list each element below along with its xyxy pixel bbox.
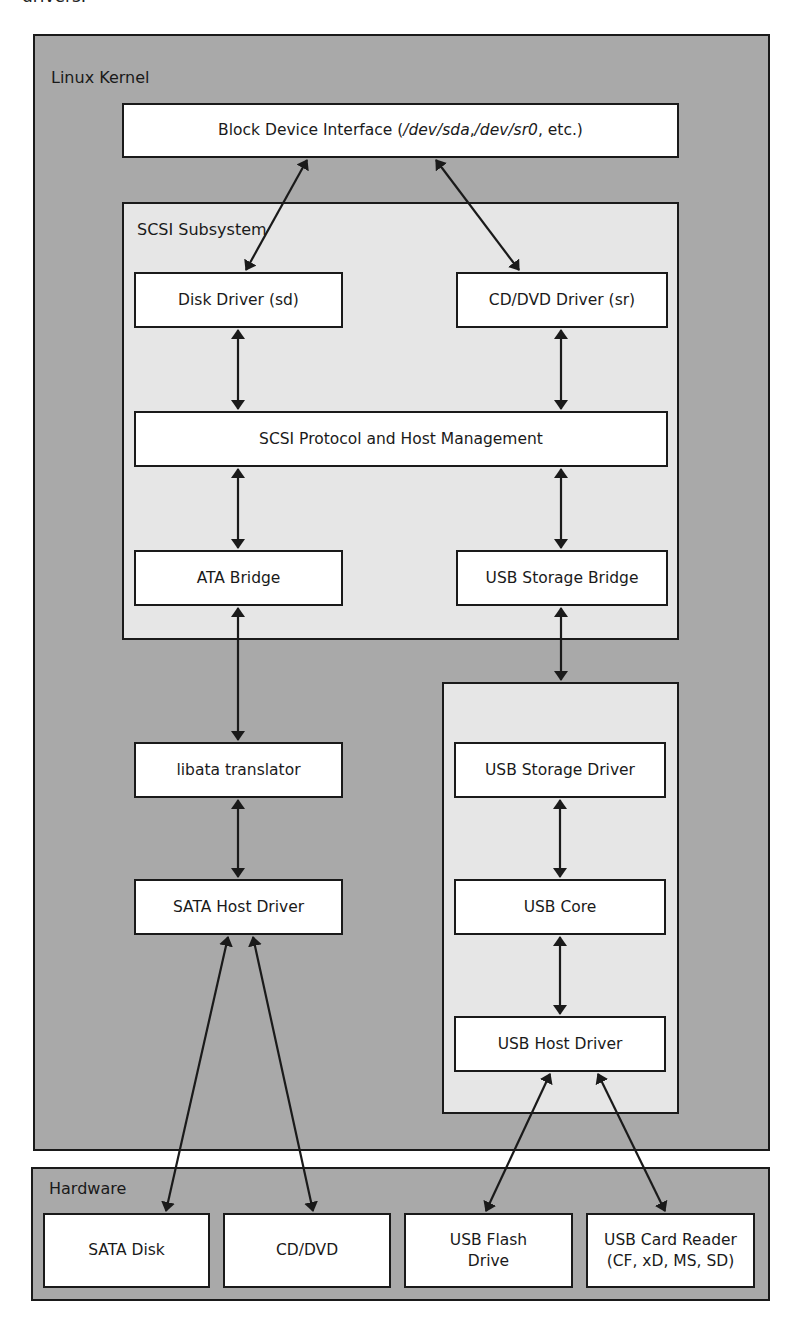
dev-sda-text: /dev/sda — [403, 120, 469, 140]
usb-card-reader-node: USB Card Reader (CF, xD, MS, SD) — [586, 1213, 755, 1288]
usb-storage-driver-node: USB Storage Driver — [454, 742, 666, 798]
cddvd-driver-sr-node: CD/DVD Driver (sr) — [456, 272, 668, 328]
block-device-interface-node: Block Device Interface (/dev/sda, /dev/s… — [122, 103, 679, 158]
scsi-subsystem-label: SCSI Subsystem — [137, 220, 267, 239]
hardware-label: Hardware — [49, 1179, 126, 1198]
block-device-suffix: , etc.) — [538, 120, 583, 140]
usb-host-driver-node: USB Host Driver — [454, 1016, 666, 1072]
usb-flash-drive-node: USB Flash Drive — [404, 1213, 573, 1288]
disk-driver-sd-node: Disk Driver (sd) — [134, 272, 343, 328]
scsi-protocol-host-management-node: SCSI Protocol and Host Management — [134, 411, 668, 467]
usb-core-node: USB Core — [454, 879, 666, 935]
usb-storage-bridge-node: USB Storage Bridge — [456, 550, 668, 606]
linux-kernel-label: Linux Kernel — [51, 68, 149, 87]
ata-bridge-node: ATA Bridge — [134, 550, 343, 606]
sata-disk-node: SATA Disk — [43, 1213, 210, 1288]
dev-sr0-text: /dev/sr0 — [475, 120, 538, 140]
sata-host-driver-node: SATA Host Driver — [134, 879, 343, 935]
libata-translator-node: libata translator — [134, 742, 343, 798]
block-device-prefix: Block Device Interface ( — [218, 120, 403, 140]
preceding-text-fragment: drivers. — [22, 0, 86, 6]
cddvd-node: CD/DVD — [223, 1213, 391, 1288]
